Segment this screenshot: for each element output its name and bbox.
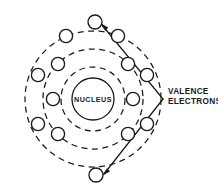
valence-electrons-label: VALENCE ELECTRONS <box>168 87 218 107</box>
electron-outer-top-right <box>111 29 124 42</box>
electron-outer-right <box>140 68 153 81</box>
electron-outer-left <box>31 68 44 81</box>
atom-diagram: NUCLEUS VALENCE ELECTRONS <box>0 0 218 193</box>
electron-outer-bottom-right <box>140 117 153 130</box>
electron-outer-top <box>88 15 102 29</box>
nucleus-label: NUCLEUS <box>74 95 112 104</box>
valence-label-line2: ELECTRONS <box>168 97 218 107</box>
electron-middle-upper-left <box>51 57 64 70</box>
electron-outer-top-left <box>59 29 72 42</box>
valence-label-line1: VALENCE <box>168 87 218 97</box>
electron-inner-right <box>126 92 139 105</box>
nucleus-group: NUCLEUS <box>72 78 114 120</box>
electron-outer-bottom-left <box>31 117 44 130</box>
electron-middle-lower-right <box>121 127 134 140</box>
electron-outer-bottom <box>89 168 103 182</box>
electron-middle-upper-right <box>121 57 134 70</box>
electron-middle-lower-left <box>51 127 64 140</box>
electron-inner-left <box>46 92 59 105</box>
